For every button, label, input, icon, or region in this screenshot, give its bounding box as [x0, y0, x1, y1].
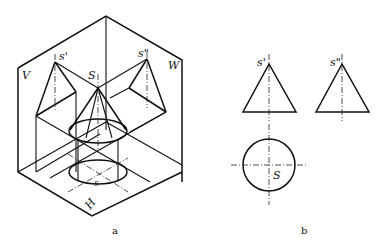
side-view-triangle — [316, 54, 369, 121]
label-s-prime-a: s' — [59, 50, 68, 63]
figure-b-orthographic: s' s" S b — [231, 54, 369, 236]
cone-projection-diagram: s' s" S s V W H a s' s" S b — [0, 0, 378, 246]
label-plane-H: H — [82, 196, 99, 213]
v-h-fold-line — [18, 122, 106, 172]
label-plane-W: W — [168, 59, 181, 72]
w-h-fold-line — [106, 122, 182, 165]
h-plane-guidelines — [36, 112, 166, 182]
label-plane-V: V — [22, 69, 31, 82]
caption-b: b — [301, 225, 307, 236]
label-s-h: s — [94, 178, 99, 188]
front-view-triangle — [243, 54, 296, 121]
figure-a-isometric: s' s" S s V W H a — [18, 16, 182, 236]
label-s-double-prime-b: s" — [330, 56, 341, 69]
label-s-prime-b: s' — [257, 56, 266, 69]
label-top-S: S — [273, 169, 281, 182]
caption-a: a — [112, 225, 118, 236]
projection-box-outline — [18, 16, 182, 216]
top-view-circle — [231, 124, 308, 205]
label-apex-S: S — [88, 69, 96, 82]
label-s-double-prime-a: s" — [138, 47, 149, 60]
